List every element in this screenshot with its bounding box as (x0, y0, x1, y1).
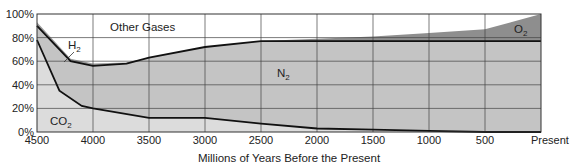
y-tick-label: 40% (12, 79, 34, 91)
atmosphere-composition-chart: 0%20%40%60%80%100% 450040003500300025002… (0, 0, 570, 167)
y-tick-label: 100% (6, 8, 34, 20)
x-tick-label: 3500 (137, 134, 161, 146)
y-tick-label: 20% (12, 102, 34, 114)
y-tick-label: 60% (12, 55, 34, 67)
x-tick-label: 1500 (361, 134, 385, 146)
x-tick-label: 2500 (249, 134, 273, 146)
label-other-gases: Other Gases (110, 21, 175, 33)
x-tick-label: 3000 (193, 134, 217, 146)
x-tick-label: 4500 (25, 134, 49, 146)
x-tick-label: Present (531, 134, 569, 146)
x-tick-label: 4000 (81, 134, 105, 146)
y-axis-ticks: 0%20%40%60%80%100% (6, 8, 34, 138)
x-tick-label: 500 (476, 134, 494, 146)
x-axis-ticks: 45004000350030002500200015001000500Prese… (25, 134, 569, 146)
x-tick-label: 1000 (417, 134, 441, 146)
x-axis-title: Millions of Years Before the Present (198, 152, 381, 164)
x-tick-label: 2000 (305, 134, 329, 146)
y-tick-label: 80% (12, 32, 34, 44)
